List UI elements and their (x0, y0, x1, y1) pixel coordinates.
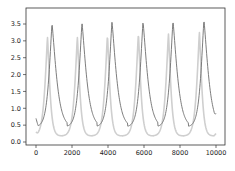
y-tick-label: 0.0 (11, 138, 21, 146)
plot-background (26, 8, 225, 145)
x-tick-label: 6000 (136, 149, 153, 157)
y-axis: 0.00.51.01.52.02.53.03.5 (11, 20, 26, 146)
x-tick-label: 0 (34, 149, 38, 157)
y-tick-label: 1.5 (11, 88, 21, 96)
line-chart: 0200040006000800010000 0.00.51.01.52.02.… (0, 0, 235, 171)
x-tick-label: 4000 (100, 149, 117, 157)
x-axis: 0200040006000800010000 (34, 145, 226, 157)
y-tick-label: 0.5 (11, 121, 21, 129)
y-tick-label: 2.5 (11, 54, 21, 62)
x-tick-label: 8000 (172, 149, 189, 157)
x-tick-label: 2000 (64, 149, 81, 157)
y-tick-label: 3.5 (11, 20, 21, 28)
x-tick-label: 10000 (206, 149, 227, 157)
y-tick-label: 3.0 (11, 37, 21, 45)
y-tick-label: 1.0 (11, 105, 21, 113)
y-tick-label: 2.0 (11, 71, 21, 79)
